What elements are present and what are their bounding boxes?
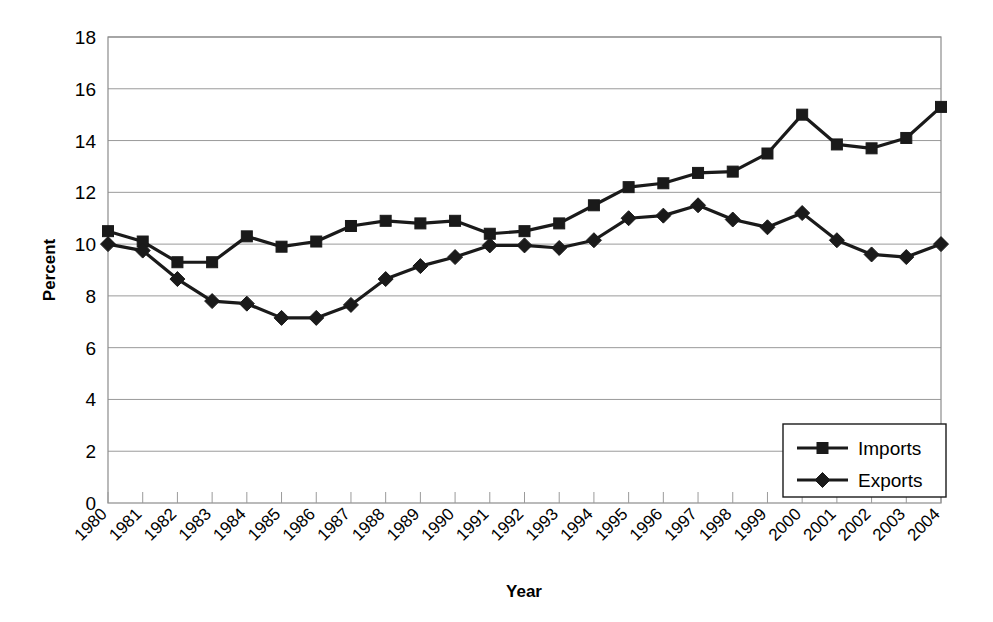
data-point-marker-square — [936, 101, 947, 112]
data-point-marker-square — [797, 109, 808, 120]
line-chart: 024681012141618 198019811982198319841985… — [0, 0, 993, 622]
data-point-marker-square — [450, 215, 461, 226]
data-point-marker-square — [817, 443, 828, 454]
data-point-marker-square — [519, 226, 530, 237]
y-tick-label: 10 — [75, 234, 96, 255]
legend-label: Exports — [858, 470, 922, 491]
data-point-marker-square — [866, 143, 877, 154]
data-point-marker-square — [623, 182, 634, 193]
chart-legend: ImportsExports — [783, 424, 946, 497]
y-tick-label: 12 — [75, 182, 96, 203]
y-tick-label: 6 — [85, 338, 96, 359]
data-point-marker-square — [693, 167, 704, 178]
data-point-marker-square — [380, 215, 391, 226]
y-tick-label: 4 — [85, 389, 96, 410]
data-point-marker-square — [172, 257, 183, 268]
data-point-marker-square — [727, 166, 738, 177]
y-tick-label: 8 — [85, 286, 96, 307]
data-point-marker-square — [658, 178, 669, 189]
data-point-marker-square — [241, 231, 252, 242]
data-point-marker-square — [345, 220, 356, 231]
y-tick-label: 16 — [75, 79, 96, 100]
data-point-marker-square — [901, 132, 912, 143]
data-point-marker-square — [103, 226, 114, 237]
y-tick-label: 14 — [75, 131, 97, 152]
data-point-marker-square — [207, 257, 218, 268]
data-point-marker-square — [311, 236, 322, 247]
chart-container: 024681012141618 198019811982198319841985… — [0, 0, 993, 622]
data-point-marker-square — [276, 241, 287, 252]
data-point-marker-square — [831, 139, 842, 150]
data-point-marker-square — [554, 218, 565, 229]
y-tick-label: 18 — [75, 27, 96, 48]
y-axis-title: Percent — [40, 238, 59, 301]
y-tick-label: 2 — [85, 441, 96, 462]
data-point-marker-square — [588, 200, 599, 211]
x-axis-title: Year — [506, 582, 542, 601]
data-point-marker-square — [415, 218, 426, 229]
legend-label: Imports — [858, 438, 921, 459]
data-point-marker-square — [762, 148, 773, 159]
